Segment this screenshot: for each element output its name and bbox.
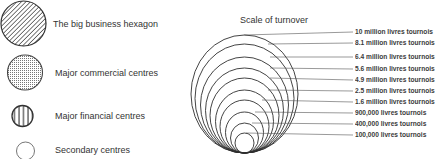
secondary-centre-icon — [17, 142, 35, 159]
circle-1-6-million — [220, 100, 269, 153]
scale-label-2-5-million: 2.5 million livres tournois — [355, 87, 435, 95]
scale-label-4-9-million: 4.9 million livres tournois — [355, 76, 435, 84]
turnover-scale-circles — [191, 35, 298, 153]
scale-label-400k: 400,000 livres tournois — [355, 120, 426, 128]
scale-label-1-6-million: 1.6 million livres tournois — [355, 98, 435, 106]
circle-6-4-million — [201, 57, 289, 153]
scale-label-5-6-million: 5.6 million livres tournois — [355, 65, 435, 73]
big-business-hexagon-icon — [1, 1, 46, 46]
major-financial-centre-icon — [12, 106, 33, 127]
legend-label-big-business-hexagon: The big business hexagon — [53, 19, 158, 29]
scale-label-900k: 900,000 livres tournois — [355, 109, 426, 117]
leader-lines — [244, 32, 353, 135]
circle-400k — [231, 123, 259, 153]
major-commercial-centre-icon — [8, 55, 43, 90]
scale-label-100k: 100,000 livres tournois — [355, 131, 426, 139]
scale-label-6-4-million: 6.4 million livres tournois — [355, 53, 435, 61]
legend-label-secondary-centres: Secondary centres — [55, 145, 130, 155]
scale-label-8-1-million: 8.1 million livres tournois — [355, 39, 435, 47]
scale-label-10-million: 10 million livres tournois — [355, 28, 433, 36]
circle-2-5-million — [216, 90, 274, 153]
legend-label-major-financial-centres: Major financial centres — [55, 111, 145, 121]
circle-8-1-million — [195, 44, 294, 153]
scale-title: Scale of turnover — [240, 15, 308, 25]
legend-label-major-commercial-centres: Major commercial centres — [55, 68, 158, 78]
circle-10-million — [191, 35, 298, 153]
circle-4-9-million — [210, 78, 279, 153]
circle-100k — [235, 133, 254, 153]
